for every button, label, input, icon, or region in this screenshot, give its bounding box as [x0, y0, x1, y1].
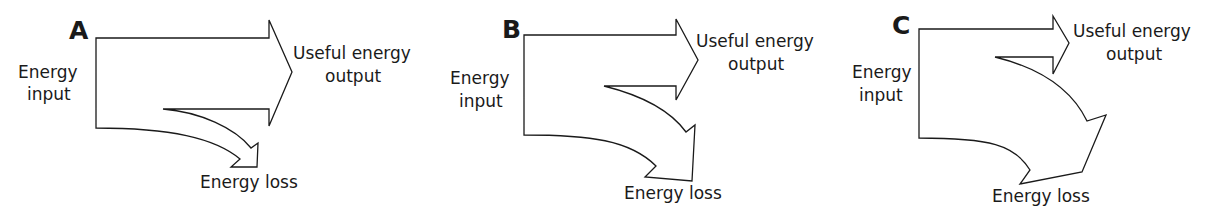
diagram-b-useful-label-line1: Useful energy — [696, 31, 814, 51]
diagram-a-useful-label-line1: Useful energy — [293, 43, 411, 63]
diagram-b-useful-arrow — [524, 19, 698, 181]
diagram-a-input-label-line2: input — [27, 84, 71, 104]
diagram-c-useful-label-line1: Useful energy — [1073, 21, 1191, 41]
diagram-a — [96, 20, 292, 167]
diagram-c-useful-label-line2: output — [1106, 44, 1162, 64]
diagram-b-letter: B — [502, 17, 521, 43]
diagram-a-useful-arrow — [96, 20, 292, 167]
diagram-c-letter: C — [892, 13, 910, 39]
diagram-b-loss-label: Energy loss — [624, 183, 722, 203]
diagram-b-input-label-line2: input — [459, 91, 503, 111]
diagram-b — [524, 19, 698, 181]
diagram-c-input-label-line1: Energy — [852, 62, 912, 82]
diagram-b-input-label-line1: Energy — [450, 68, 510, 88]
diagram-c — [919, 16, 1106, 184]
diagram-a-loss-label: Energy loss — [200, 172, 298, 192]
diagram-a-useful-label-line2: output — [325, 66, 381, 86]
diagram-c-loss-label: Energy loss — [992, 186, 1090, 206]
diagram-a-letter: A — [69, 18, 88, 44]
diagram-b-useful-label-line2: output — [728, 54, 784, 74]
diagram-a-input-label-line1: Energy — [18, 62, 78, 82]
diagram-c-useful-arrow — [919, 16, 1106, 184]
diagram-c-input-label-line2: input — [859, 85, 903, 105]
